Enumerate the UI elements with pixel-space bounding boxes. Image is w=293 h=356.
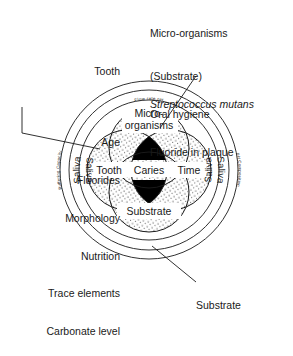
leader-substrate-bottom [152, 246, 196, 282]
tooth-line-5: Carbonate level [4, 325, 120, 338]
substrate-top-block: (Substrate) Oral hygiene Fluoride in pla… [150, 45, 233, 184]
substrate-bottom-block: Substrate Oral clearance Oral hygiene De… [196, 274, 289, 356]
substrate-top-line-0: Oral hygiene [150, 108, 233, 121]
tooth-heading: Tooth [4, 65, 120, 78]
tooth-line-4: Trace elements [4, 287, 120, 300]
tooth-line-1: Fluorides [4, 174, 120, 187]
tooth-line-2: Morphology [4, 212, 120, 225]
tooth-line-0: Age [4, 136, 120, 149]
substrate-top-heading: (Substrate) [150, 70, 233, 83]
venn-label-substrate: Substrate [127, 205, 172, 217]
micro-organisms-heading: Micro-organisms [150, 27, 254, 40]
substrate-top-line-1: Fluoride in plaque [150, 146, 233, 159]
tooth-block: Tooth Age Fluorides Morphology Nutrition… [4, 40, 120, 356]
substrate-bottom-heading: Substrate [196, 299, 289, 312]
figure-canvas: Micro- organisms Tooth Time Substrate Ca… [0, 0, 293, 356]
ring-label-ph-composition: pH Composition [236, 153, 243, 188]
tooth-line-3: Nutrition [4, 250, 120, 263]
